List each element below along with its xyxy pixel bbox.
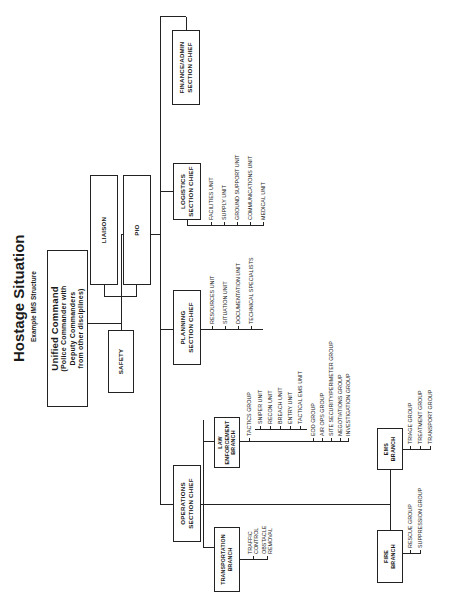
pio-box: PIO — [123, 175, 151, 285]
planning-unit: TECHNICAL SPECIALISTS — [248, 257, 254, 324]
tick — [250, 222, 251, 226]
operations-section-chief-box: OPERATIONS SECTION CHIEF — [173, 465, 201, 542]
operations-label-1: OPERATIONS — [179, 482, 187, 524]
ems-groups-bus — [403, 449, 430, 450]
tick — [430, 446, 431, 450]
connector — [203, 441, 214, 442]
logistics-units-bus — [187, 225, 263, 226]
tick — [225, 326, 226, 330]
ems-fire-bus — [390, 470, 391, 530]
fire-groups-bus — [403, 553, 420, 554]
logistics-unit: FACILITIES UNIT — [208, 177, 214, 220]
logistics-unit: MEDICAL UNIT — [260, 182, 266, 220]
planning-unit: RESOURCES UNIT — [209, 276, 215, 324]
transportation-label-2: BRANCH — [227, 548, 234, 572]
ems-label-2: BRANCH — [390, 437, 397, 462]
ems-group: TRIAGE GROUP — [407, 403, 413, 444]
connector — [203, 504, 390, 505]
connector — [104, 296, 121, 297]
tick — [420, 550, 421, 554]
connector — [186, 17, 187, 30]
transportation-branch-box: TRANSPORTATION BRANCH — [214, 527, 240, 592]
planning-unit: DOCUMENTATION UNIT — [235, 263, 241, 324]
tactics-unit: BREACH UNIT — [277, 387, 283, 424]
connector — [160, 191, 173, 192]
chart-subtitle: Example IMS Structure — [30, 271, 37, 342]
finance-section-chief-box: FINANCE/ADMIN SECTION CHIEF — [172, 30, 200, 105]
tick — [251, 326, 252, 330]
transportation-item: OBSTACLE REMOVAL — [261, 526, 273, 554]
law-enf-group: NEGOTIATIONS GROUP — [337, 374, 343, 436]
ems-label-1: EMS — [383, 443, 390, 455]
law-enf-group: SITE SECURITY/PERIMETER GROUP — [328, 341, 334, 436]
tick — [238, 326, 239, 330]
connector — [160, 16, 186, 17]
planning-section-chief-box: PLANNING SECTION CHIEF — [173, 290, 201, 365]
tick — [340, 438, 341, 442]
tick — [322, 438, 323, 442]
tick — [237, 222, 238, 226]
main-spine — [160, 16, 161, 505]
tick — [331, 438, 332, 442]
tactics-unit: RECON UNIT — [267, 390, 273, 424]
planning-label-1: PLANNING — [179, 311, 187, 345]
unified-command-line: (Police Commander with — [60, 285, 69, 371]
fire-label-1: FIRE — [383, 550, 390, 563]
law-enforcement-branch-box: LAW ENFORCEMENT BRANCH — [214, 417, 240, 468]
chart-title: Hostage Situation — [11, 234, 27, 362]
liaison-label: LIAISON — [100, 217, 108, 244]
tactics-unit: ENTRY UNIT — [287, 392, 293, 424]
unified-command-line: Deputy Commanders — [69, 292, 78, 366]
connector — [121, 322, 122, 330]
tick — [249, 438, 250, 442]
tactics-unit: TACTICAL EMS UNIT — [297, 371, 303, 424]
ems-group: TREATMENT GROUP — [417, 390, 423, 444]
logistics-label-2: SECTION CHIEF — [187, 166, 195, 216]
fire-branch-box: FIRE BRANCH — [377, 530, 403, 583]
safety-box: SAFETY — [108, 330, 134, 393]
fire-group: RESCUE GROUP — [407, 504, 413, 548]
tactics-unit: SNIPER UNIT — [257, 390, 263, 424]
connector — [203, 547, 214, 548]
liaison-box: LIAISON — [90, 175, 118, 285]
tick — [410, 446, 411, 450]
transportation-item: TRAFFIC CONTROL — [247, 528, 259, 554]
law-enf-group: INVESTIGATION GROUP — [345, 374, 351, 437]
ems-branch-box: EMS BRANCH — [377, 428, 403, 470]
tick — [280, 426, 281, 430]
tick — [224, 222, 225, 226]
operations-label-2: SECTION CHIEF — [187, 478, 195, 528]
tick — [410, 550, 411, 554]
law-enf-label-3: BRANCH — [230, 430, 236, 455]
safety-label: SAFETY — [117, 349, 125, 375]
logistics-unit: COMMUNICATIONS UNIT — [247, 156, 253, 220]
connector — [203, 505, 204, 548]
transportation-item-line: CONTROL — [253, 528, 259, 554]
planning-unit: SITUATION UNIT — [222, 282, 228, 324]
tick — [263, 222, 264, 226]
tick — [300, 426, 301, 430]
tick — [348, 438, 349, 442]
ems-group: TRANSPORT GROUP — [427, 390, 433, 444]
fire-group: SUPPRESSION GROUP — [417, 488, 423, 548]
unified-command-title: Unified Command — [49, 286, 60, 370]
logistics-label-1: LOGISTICS — [179, 174, 187, 209]
operations-branch-bus — [203, 420, 204, 505]
logistics-unit: SUPPLY UNIT — [221, 185, 227, 220]
planning-units-bus — [201, 329, 263, 330]
tick — [260, 426, 261, 430]
connector — [160, 329, 173, 330]
law-enf-group: EOD GROUP — [310, 403, 316, 436]
connector — [88, 323, 122, 324]
planning-label-2: SECTION CHIEF — [187, 302, 195, 352]
logistics-unit: GROUND SUPPORT UNIT — [234, 155, 240, 220]
transportation-item-line: REMOVAL — [267, 526, 273, 554]
pio-label: PIO — [133, 224, 141, 235]
tick — [212, 326, 213, 330]
tick — [267, 556, 268, 560]
finance-label-1: FINANCE/ADMIN — [178, 41, 186, 93]
tick — [211, 222, 212, 226]
logistics-section-chief-box: LOGISTICS SECTION CHIEF — [173, 163, 201, 220]
connector — [121, 296, 136, 297]
tick — [253, 556, 254, 560]
